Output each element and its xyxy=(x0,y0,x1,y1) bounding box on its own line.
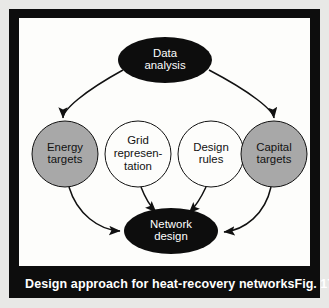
edge-grid-representation-to-network-design xyxy=(141,187,156,212)
node-label-capital-targets: targets xyxy=(257,153,292,165)
figure-root: DataanalysisEnergytargetsGridrepresen-ta… xyxy=(0,0,329,308)
edge-capital-targets-to-network-design xyxy=(224,187,271,232)
figure-caption-bar: Design approach for heat-recovery networ… xyxy=(19,271,310,296)
node-label-data-analysis: Data xyxy=(153,47,178,59)
node-label-grid-representation: represen- xyxy=(114,147,163,159)
node-design-rules: Designrules xyxy=(178,121,244,187)
edge-energy-targets-to-network-design xyxy=(69,187,120,231)
node-label-design-rules: rules xyxy=(199,153,224,165)
edge-data-analysis-to-energy-targets xyxy=(63,70,123,118)
node-label-capital-targets: Capital xyxy=(256,141,291,153)
diagram-panel: DataanalysisEnergytargetsGridrepresen-ta… xyxy=(19,18,310,266)
figure-caption-text: Design approach for heat-recovery networ… xyxy=(25,277,295,291)
figure-frame: DataanalysisEnergytargetsGridrepresen-ta… xyxy=(9,9,320,298)
node-data-analysis: Dataanalysis xyxy=(118,37,212,83)
node-label-grid-representation: Grid xyxy=(127,134,149,146)
node-label-network-design: Network xyxy=(150,218,192,230)
node-network-design: Networkdesign xyxy=(124,208,218,254)
node-label-energy-targets: Energy xyxy=(47,141,83,153)
node-label-design-rules: Design xyxy=(193,141,228,153)
node-label-energy-targets: targets xyxy=(48,153,83,165)
node-label-data-analysis: analysis xyxy=(144,59,185,71)
node-label-network-design: design xyxy=(154,230,188,242)
edge-data-analysis-to-capital-targets xyxy=(209,70,274,118)
node-energy-targets: Energytargets xyxy=(32,121,98,187)
figure-number-label: Fig. 17 xyxy=(295,277,329,291)
node-capital-targets: Capitaltargets xyxy=(241,121,307,187)
node-label-grid-representation: tation xyxy=(124,160,152,172)
edge-design-rules-to-network-design xyxy=(189,187,206,213)
node-layer: DataanalysisEnergytargetsGridrepresen-ta… xyxy=(32,37,307,254)
flowchart-diagram: DataanalysisEnergytargetsGridrepresen-ta… xyxy=(19,18,310,266)
node-grid-representation: Gridrepresen-tation xyxy=(105,121,171,187)
